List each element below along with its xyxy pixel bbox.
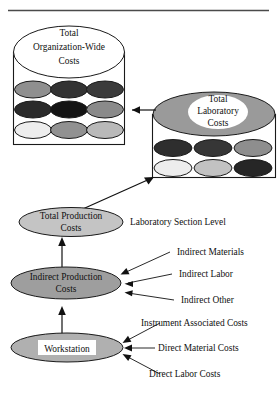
org-cell-1-2 xyxy=(87,101,124,118)
arrowhead-indirect-labor xyxy=(125,281,134,287)
direct-material-costs-label: Direct Material Costs xyxy=(158,343,239,353)
direct-labor-costs-label: Direct Labor Costs xyxy=(149,369,221,379)
arrow-indirect-to-total xyxy=(58,237,66,267)
lab-cell-0-0 xyxy=(154,140,192,157)
org-cell-0-2 xyxy=(87,81,124,98)
instrument-associated-costs-label: Instrument Associated Costs xyxy=(141,318,248,328)
lab-cell-0-1 xyxy=(194,140,232,157)
indirect-materials-label: Indirect Materials xyxy=(177,247,244,257)
arrowhead-workstation-to-indirect xyxy=(58,306,66,315)
org-header-label-line2: Organization-Wide xyxy=(33,42,105,52)
org-cell-2-1 xyxy=(51,122,88,139)
lab-header-label-line2: Laboratory xyxy=(197,106,239,116)
laboratory-costs-container: Total Laboratory Costs xyxy=(153,92,276,178)
org-cell-0-0 xyxy=(15,81,52,98)
node-indirect-production-costs: Indirect Production Costs xyxy=(11,267,121,299)
leaders-direct xyxy=(123,323,161,374)
indirect-other-label: Indirect Other xyxy=(181,295,235,305)
cost-hierarchy-diagram: Total Organization-Wide Costs Total Labo… xyxy=(0,0,278,393)
org-cell-1-0 xyxy=(15,101,52,118)
indirect-production-label-line2: Costs xyxy=(56,284,77,294)
lab-cell-1-0 xyxy=(154,160,192,177)
org-cell-0-1 xyxy=(51,81,88,98)
lab-header-label-line3: Costs xyxy=(208,118,229,128)
total-production-label-line1: Total Production xyxy=(40,211,103,221)
org-cell-2-2 xyxy=(87,122,124,139)
organization-wide-costs-container: Total Organization-Wide Costs xyxy=(14,26,125,145)
total-production-label-line2: Costs xyxy=(61,223,82,233)
lab-cell-1-1 xyxy=(194,160,232,177)
lab-ellipse-grid xyxy=(154,140,272,177)
org-header-label-line1: Total xyxy=(59,28,79,38)
arrow-lab-to-org xyxy=(132,106,156,114)
leaders-indirect xyxy=(121,252,175,300)
arrowhead-direct-labor xyxy=(123,354,132,361)
node-total-production-costs: Total Production Costs xyxy=(19,208,123,237)
lab-cell-1-2 xyxy=(234,160,272,177)
arrowhead-indirect-other xyxy=(125,290,133,296)
arrow-production-to-lab xyxy=(76,177,154,212)
indirect-production-label-line1: Indirect Production xyxy=(30,272,103,282)
org-cell-1-1 xyxy=(51,101,88,118)
arrowhead-instrument-associated xyxy=(123,336,132,343)
arrowhead-indirect-to-total xyxy=(58,237,66,246)
laboratory-section-level-label: Laboratory Section Level xyxy=(130,217,226,227)
lab-header-label-line1: Total xyxy=(208,94,228,104)
org-ellipse-grid xyxy=(15,81,124,139)
arrowhead-lab-to-org xyxy=(132,106,140,114)
node-workstation: Workstation xyxy=(11,333,123,362)
workstation-label: Workstation xyxy=(44,344,90,354)
org-cell-2-0 xyxy=(15,122,52,139)
indirect-labor-label: Indirect Labor xyxy=(179,269,234,279)
arrowhead-direct-material xyxy=(124,345,132,352)
lab-cell-0-2 xyxy=(234,140,272,157)
org-header-label-line3: Costs xyxy=(59,56,80,66)
